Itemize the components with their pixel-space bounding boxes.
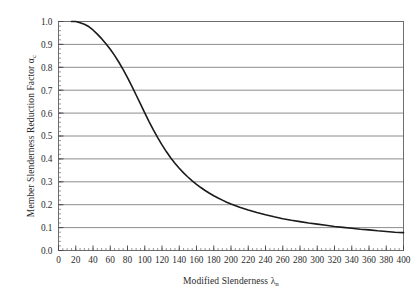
y-tick-label: 0.3	[41, 177, 53, 187]
x-tick-label: 260	[276, 255, 290, 265]
y-tick-label: 0.4	[41, 154, 53, 164]
y-tick-label: 0.7	[41, 86, 53, 96]
y-tick-label: 0.8	[41, 63, 53, 73]
y-tick-label: 0.6	[41, 109, 53, 119]
x-tick-label: 0	[56, 255, 61, 265]
x-tick-label: 100	[138, 255, 152, 265]
x-tick-label: 340	[345, 255, 359, 265]
y-tick-label: 0.9	[41, 40, 53, 50]
x-tick-label: 380	[379, 255, 393, 265]
x-tick-label: 280	[293, 255, 307, 265]
x-tick-label: 360	[362, 255, 376, 265]
y-axis-label-subscript: c	[30, 55, 38, 58]
chart-figure: 0.00.10.20.30.40.50.60.70.80.91.00204060…	[0, 0, 420, 301]
y-tick-label: 0.5	[41, 131, 53, 141]
x-tick-label: 180	[207, 255, 221, 265]
y-axis-label-text: Member Slenderness Reduction Factor	[26, 66, 36, 218]
y-tick-label: 0.1	[41, 223, 53, 233]
y-axis-label-symbol: α	[26, 58, 36, 63]
x-axis-label-subscript: n	[275, 280, 279, 288]
y-tick-label: 0.2	[41, 200, 53, 210]
x-tick-label: 40	[88, 255, 98, 265]
y-tick-label: 0.0	[41, 246, 53, 256]
y-axis-label: Member Slenderness Reduction Factor αc	[26, 11, 38, 261]
x-tick-label: 20	[71, 255, 81, 265]
x-axis-label-text: Modified Slenderness	[183, 276, 268, 286]
x-tick-label: 140	[172, 255, 186, 265]
x-tick-label: 400	[397, 255, 411, 265]
x-tick-label: 80	[123, 255, 133, 265]
x-axis-label: Modified Slenderness λn	[58, 276, 404, 288]
x-tick-label: 120	[155, 255, 169, 265]
x-tick-label: 220	[241, 255, 255, 265]
x-tick-label: 160	[190, 255, 204, 265]
x-tick-label: 200	[224, 255, 238, 265]
series-line	[71, 22, 403, 233]
x-tick-label: 60	[106, 255, 116, 265]
y-tick-label: 1.0	[41, 17, 53, 27]
x-tick-label: 300	[310, 255, 324, 265]
x-tick-label: 320	[328, 255, 342, 265]
chart-svg: 0.00.10.20.30.40.50.60.70.80.91.00204060…	[0, 0, 420, 301]
x-tick-label: 240	[259, 255, 273, 265]
